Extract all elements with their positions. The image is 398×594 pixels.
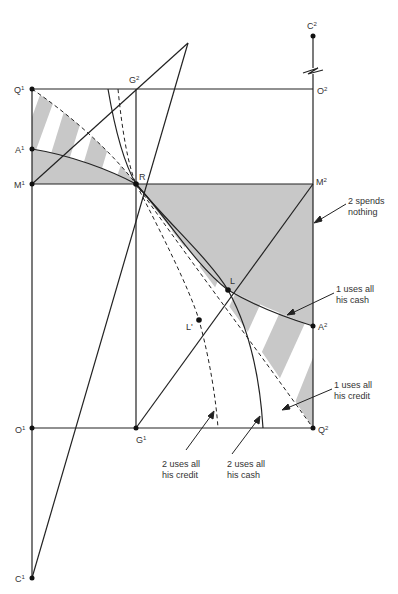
label-m1-name: M (14, 180, 22, 190)
shaded-area-upper-left (32, 149, 136, 184)
label-c1-sup: 1 (22, 574, 25, 580)
label-g2-sup: 2 (136, 75, 139, 81)
c2-axis-break (303, 36, 323, 89)
annotation-line: 2 uses all (227, 459, 265, 470)
annotation-2-uses-all-cash: 2 uses all his cash (227, 459, 265, 481)
annotation-line: 2 spends (348, 196, 385, 207)
label-r-name: R (139, 172, 146, 182)
annotation-line: his cash (227, 470, 265, 481)
label-r: R (139, 172, 146, 183)
label-a1: A1 (15, 143, 24, 156)
label-g1-sup: 1 (143, 435, 146, 441)
annotation-line: 2 uses all (162, 459, 200, 470)
annotation-2-uses-all-credit: 2 uses all his credit (162, 459, 200, 481)
label-g2-name: G (129, 75, 136, 85)
label-m1: M1 (14, 178, 25, 191)
label-o1-name: O (15, 425, 22, 435)
label-l-prime: L' (186, 322, 193, 333)
label-a2: A2 (318, 320, 327, 333)
label-o1: O1 (15, 423, 25, 436)
label-a1-sup: 1 (21, 145, 24, 151)
annotation-2-spends-nothing: 2 spends nothing (348, 196, 385, 218)
label-o2-name: O (317, 86, 324, 96)
label-c2: C2 (307, 19, 317, 32)
label-q2-sup: 2 (325, 425, 328, 431)
label-g2: G2 (129, 73, 139, 86)
annotation-line: 1 uses all (334, 380, 372, 391)
label-q1-sup: 1 (21, 85, 24, 91)
label-o1-sup: 1 (22, 425, 25, 431)
label-m2-sup: 2 (324, 177, 327, 183)
label-q2-name: Q (318, 425, 325, 435)
label-m2-name: M (316, 177, 324, 187)
annotation-line: his credit (334, 391, 372, 402)
label-c1: C1 (15, 572, 25, 585)
diagonal-line (32, 43, 188, 578)
label-q1: Q1 (14, 83, 24, 96)
diagonal-line-upper (32, 43, 188, 184)
annotation-line: his cash (336, 295, 374, 306)
shaded-area-main (136, 184, 313, 326)
label-a2-sup: 2 (324, 322, 327, 328)
annotation-1-uses-all-credit: 1 uses all his credit (334, 380, 372, 402)
annotation-1-uses-all-cash: 1 uses all his cash (336, 284, 374, 306)
label-q1-name: Q (14, 85, 21, 95)
label-l-name: L (230, 276, 235, 286)
label-m1-sup: 1 (22, 180, 25, 186)
label-o2-sup: 2 (324, 86, 327, 92)
annotation-line: 1 uses all (336, 284, 374, 295)
label-g1: G1 (136, 433, 146, 446)
label-o2: O2 (317, 84, 327, 97)
annotation-line: nothing (348, 207, 385, 218)
label-g1-name: G (136, 435, 143, 445)
annotation-line: his credit (162, 470, 200, 481)
label-m2: M2 (316, 175, 327, 188)
label-q2: Q2 (318, 423, 328, 436)
label-l-prime-name: L' (186, 322, 193, 332)
label-l: L (230, 276, 235, 287)
label-c2-sup: 2 (314, 21, 317, 27)
